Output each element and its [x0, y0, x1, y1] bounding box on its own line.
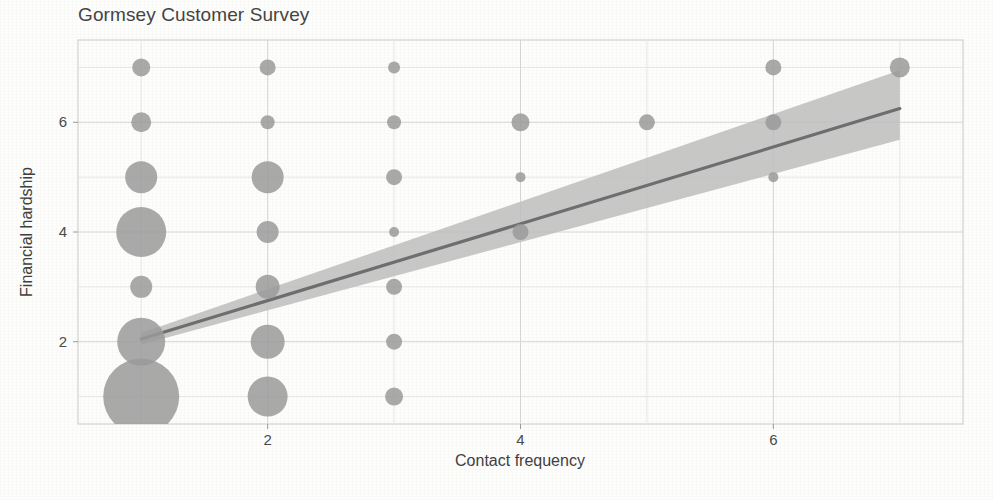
data-point-bubble	[386, 334, 402, 350]
data-point-bubble	[256, 275, 280, 299]
data-point-bubble	[386, 169, 402, 185]
data-point-bubble	[765, 114, 781, 130]
y-axis-title: Financial hardship	[18, 167, 35, 297]
data-point-bubble	[125, 161, 157, 193]
chart-screenshot: Gormsey Customer Survey 246246 Contact f…	[0, 0, 993, 500]
y-axis-tick-label: 4	[59, 223, 67, 240]
data-point-bubble	[257, 221, 279, 243]
x-axis-tick-label: 6	[769, 431, 777, 448]
x-axis-tick-label: 4	[516, 431, 524, 448]
data-point-bubble	[513, 224, 529, 240]
scatter-plot: 246246 Contact frequency Financial hards…	[0, 0, 993, 500]
data-point-bubble	[117, 318, 165, 366]
x-axis-tick-label: 2	[263, 431, 271, 448]
data-point-bubble	[639, 114, 655, 130]
data-point-bubble	[116, 207, 166, 257]
x-axis-title: Contact frequency	[455, 452, 585, 469]
data-point-bubble	[388, 61, 400, 73]
data-point-bubble	[130, 276, 152, 298]
data-point-bubble	[252, 161, 284, 193]
data-point-bubble	[260, 59, 276, 75]
data-point-bubble	[261, 115, 275, 129]
data-point-bubble	[248, 377, 288, 417]
data-point-bubble	[251, 325, 285, 359]
data-point-bubble	[103, 359, 179, 435]
data-point-bubble	[512, 113, 530, 131]
data-point-bubble	[890, 57, 910, 77]
data-point-bubble	[389, 227, 399, 237]
data-point-bubble	[516, 172, 526, 182]
data-point-bubble	[385, 388, 403, 406]
data-point-bubble	[765, 59, 781, 75]
data-point-bubble	[386, 279, 402, 295]
y-axis-tick-label: 6	[59, 113, 67, 130]
data-point-bubble	[131, 112, 151, 132]
data-point-bubble	[132, 58, 150, 76]
data-point-bubble	[768, 172, 778, 182]
data-point-bubble	[387, 115, 401, 129]
y-axis-tick-label: 2	[59, 333, 67, 350]
